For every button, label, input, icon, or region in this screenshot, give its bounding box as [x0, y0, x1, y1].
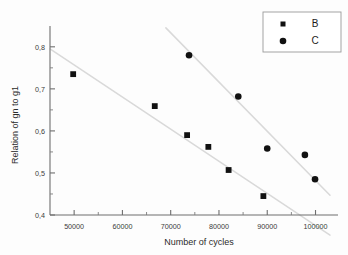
data-point-b	[260, 193, 266, 199]
chart-figure: 50000600007000080000900001000000,40,50,6…	[0, 0, 348, 255]
x-axis-tick-label: 100000	[304, 222, 328, 231]
plot-axes	[50, 26, 338, 215]
y-axis-tick-label: 0,8	[35, 43, 45, 52]
chart-legend: B C	[263, 12, 341, 52]
data-point-b	[184, 132, 190, 138]
data-point-b	[205, 144, 211, 150]
x-axis-title: Number of cycles	[164, 237, 234, 247]
data-point-b	[226, 167, 232, 173]
y-axis-tick-label: 0,7	[35, 85, 45, 94]
scatter-plot: 50000600007000080000900001000000,40,50,6…	[0, 0, 348, 255]
y-axis-tick-label: 0,5	[35, 169, 45, 178]
x-axis-tick-label: 70000	[161, 222, 181, 231]
data-markers	[70, 52, 318, 199]
data-point-b	[70, 71, 76, 77]
legend-label-b: B	[312, 18, 319, 29]
trend-lines	[50, 28, 330, 235]
y-axis-tick-label: 0,4	[35, 211, 45, 220]
data-point-c	[235, 93, 242, 100]
data-point-c	[264, 145, 271, 152]
y-axis-tick-label: 0,6	[35, 127, 45, 136]
x-axis-tick-label: 80000	[209, 222, 229, 231]
data-point-b	[152, 103, 158, 109]
y-axis-title: Relation of gn to g1	[10, 86, 20, 164]
data-point-c	[312, 176, 319, 183]
x-axis-tick-label: 60000	[112, 222, 132, 231]
legend-box	[263, 12, 341, 52]
legend-marker-square	[281, 22, 286, 27]
legend-marker-circle	[280, 38, 287, 45]
x-axis-tick-label: 90000	[257, 222, 277, 231]
data-point-c	[186, 52, 193, 59]
x-axis-tick-label: 50000	[64, 222, 84, 231]
legend-label-c: C	[311, 35, 318, 46]
trend-line-b	[50, 49, 330, 235]
data-point-c	[302, 152, 309, 159]
